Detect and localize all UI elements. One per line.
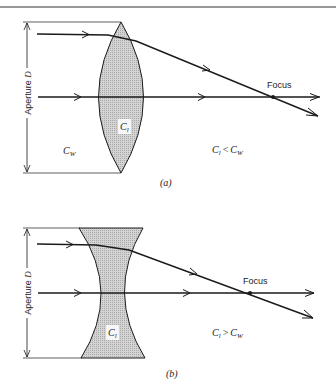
relation-label: Cl<CW (212, 144, 244, 157)
aperture-label: Aperture D (23, 71, 33, 115)
aperture-label-b: Aperture D (23, 271, 33, 315)
acoustic-lens-diagram: Aperture D Focus Cl CW Cl<CW (a) (0, 0, 336, 386)
relation-label-b: Cl>CW (212, 327, 244, 340)
ray-upper-b (37, 244, 313, 318)
focus-label-b: Focus (243, 276, 268, 286)
caption-a: (a) (160, 177, 172, 189)
caption-b: (b) (166, 368, 178, 380)
focus-point (271, 95, 275, 99)
focus-label: Focus (267, 80, 292, 90)
panel-a: Aperture D Focus Cl CW Cl<CW (a) (23, 22, 320, 189)
ray-upper (37, 34, 318, 116)
panel-b: Aperture D Focus Cl Cl>CW (b) (23, 228, 314, 380)
focus-point-b (248, 291, 252, 295)
surrounding-medium-label: CW (63, 145, 77, 158)
